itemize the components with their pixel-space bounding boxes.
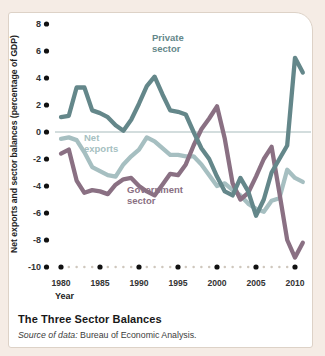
- y-tick-dot: [44, 102, 49, 107]
- x-minor-dot: [278, 266, 281, 269]
- x-minor-dot: [169, 266, 172, 269]
- y-tick-dot: [44, 21, 49, 26]
- y-tick-label: -8: [33, 235, 41, 245]
- x-tick-label: 1990: [129, 278, 148, 288]
- x-minor-dot: [107, 266, 110, 269]
- x-minor-dot: [192, 266, 195, 269]
- x-tick-label: 2000: [207, 278, 226, 288]
- x-minor-dot: [263, 266, 266, 269]
- x-minor-dot: [208, 266, 211, 269]
- government-sector-label: Governmentsector: [127, 184, 184, 206]
- x-minor-dot: [185, 266, 188, 269]
- y-tick-label: -10: [28, 262, 41, 272]
- x-tick-dot: [58, 264, 63, 269]
- x-axis-title: Year: [55, 291, 75, 301]
- x-tick-label: 1980: [51, 278, 70, 288]
- figure-title: The Three Sector Balances: [18, 313, 298, 325]
- x-tick-dot: [214, 264, 219, 269]
- x-minor-dot: [247, 266, 250, 269]
- y-axis-title: Net exports and sector balances (percent…: [9, 35, 19, 253]
- y-tick-dot: [44, 264, 49, 269]
- y-tick-label: 0: [36, 127, 41, 137]
- x-tick-label: 2010: [285, 278, 304, 288]
- x-minor-dot: [224, 266, 227, 269]
- x-minor-dot: [153, 266, 156, 269]
- y-tick-dot: [44, 48, 49, 53]
- x-tick-label: 2005: [246, 278, 265, 288]
- x-tick-dot: [97, 264, 102, 269]
- y-tick-label: -2: [33, 154, 41, 164]
- x-minor-dot: [161, 266, 164, 269]
- x-minor-dot: [286, 266, 289, 269]
- x-minor-dot: [68, 266, 71, 269]
- x-minor-dot: [239, 266, 242, 269]
- y-tick-label: -6: [33, 208, 41, 218]
- x-tick-label: 1985: [90, 278, 109, 288]
- x-tick-dot: [292, 264, 297, 269]
- y-tick-dot: [44, 129, 49, 134]
- x-minor-dot: [130, 266, 133, 269]
- x-tick-dot: [136, 264, 141, 269]
- figure-canvas: 86420-2-4-6-8-10198019851990199520002005…: [0, 0, 325, 356]
- y-tick-dot: [44, 156, 49, 161]
- source-text: Bureau of Economic Analysis.: [78, 330, 197, 340]
- x-minor-dot: [75, 266, 78, 269]
- three-sector-balances-chart: 86420-2-4-6-8-10198019851990199520002005…: [0, 0, 325, 356]
- x-minor-dot: [114, 266, 117, 269]
- x-minor-dot: [231, 266, 234, 269]
- y-tick-label: 8: [36, 19, 41, 29]
- x-minor-dot: [91, 266, 94, 269]
- y-tick-dot: [44, 237, 49, 242]
- x-minor-dot: [270, 266, 273, 269]
- x-minor-dot: [122, 266, 125, 269]
- private-sector-label: Privatesector: [152, 32, 184, 54]
- x-tick-dot: [253, 264, 258, 269]
- x-tick-label: 1995: [168, 278, 187, 288]
- y-tick-label: 6: [36, 46, 41, 56]
- x-minor-dot: [146, 266, 149, 269]
- y-tick-dot: [44, 183, 49, 188]
- x-tick-dot: [175, 264, 180, 269]
- y-tick-label: -4: [33, 181, 41, 191]
- net-exports-label: Netexports: [84, 132, 118, 154]
- x-minor-dot: [83, 266, 86, 269]
- y-tick-dot: [44, 75, 49, 80]
- x-minor-dot: [200, 266, 203, 269]
- figure-source: Source of data: Bureau of Economic Analy…: [18, 330, 308, 340]
- y-tick-label: 2: [36, 100, 41, 110]
- government-sector-line: [61, 106, 303, 257]
- y-tick-dot: [44, 210, 49, 215]
- y-tick-label: 4: [36, 73, 41, 83]
- source-prefix-label: Source of data:: [18, 330, 78, 340]
